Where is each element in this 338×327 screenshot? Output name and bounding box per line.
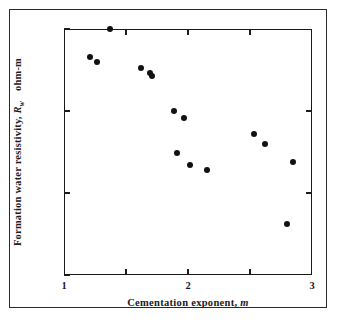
y-axis-tick-right bbox=[306, 192, 312, 193]
y-axis-tick-left bbox=[64, 28, 70, 29]
x-axis-tick-bottom bbox=[187, 269, 188, 275]
y-axis-tick-right bbox=[306, 110, 312, 111]
data-point bbox=[171, 108, 177, 114]
data-point bbox=[187, 162, 193, 168]
data-point bbox=[204, 167, 210, 173]
x-axis-tick-label: 1 bbox=[52, 281, 76, 292]
y-axis-title-wrap: Formation water resistivity, Rwohm-m bbox=[10, 29, 28, 275]
data-point bbox=[290, 159, 296, 165]
data-point bbox=[94, 59, 100, 65]
y-axis-symbol-subscript: w bbox=[17, 101, 26, 106]
y-axis-units: ohm-m bbox=[12, 58, 23, 91]
y-axis-symbol: R bbox=[12, 106, 23, 113]
x-axis-symbol: m bbox=[240, 297, 248, 308]
x-axis-tick-top bbox=[187, 29, 188, 35]
y-axis-title: Formation water resistivity, Rwohm-m bbox=[12, 58, 26, 246]
y-axis-title-text: Formation water resistivity, bbox=[12, 113, 23, 246]
data-point bbox=[149, 73, 155, 79]
x-axis-tick-label: 3 bbox=[300, 281, 324, 292]
figure-canvas: 10.10.010.001 123 Cementation exponent, … bbox=[0, 0, 338, 327]
data-point bbox=[138, 65, 144, 71]
data-point bbox=[174, 150, 180, 156]
x-axis-tick-label: 2 bbox=[176, 281, 200, 292]
data-point bbox=[284, 221, 290, 227]
x-axis-tick-labels: 123 bbox=[0, 281, 338, 297]
x-axis-tick-top bbox=[125, 29, 126, 35]
y-axis-tick-labels: 10.10.010.001 bbox=[0, 0, 60, 327]
x-axis-tick-bottom bbox=[249, 269, 250, 275]
data-point bbox=[87, 54, 93, 60]
x-axis-title: Cementation exponent, m bbox=[64, 297, 312, 308]
data-point bbox=[181, 115, 187, 121]
y-axis-tick-left bbox=[64, 192, 70, 193]
y-axis-tick-left bbox=[64, 110, 70, 111]
x-axis-title-text: Cementation exponent, bbox=[127, 297, 240, 308]
plot-area bbox=[64, 29, 312, 275]
data-point bbox=[107, 26, 113, 32]
data-point bbox=[262, 141, 268, 147]
data-point bbox=[251, 131, 257, 137]
y-axis-tick-left bbox=[64, 274, 70, 275]
x-axis-tick-top bbox=[249, 29, 250, 35]
x-axis-tick-bottom bbox=[125, 269, 126, 275]
